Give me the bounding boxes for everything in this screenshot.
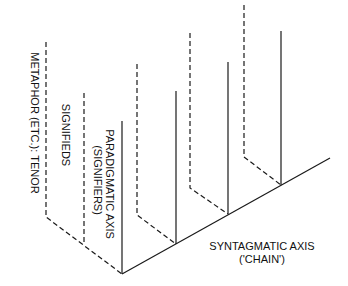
dashed-plane-2 <box>137 64 176 244</box>
metaphor-tenor-label: METAPHOR (ETC.): TENOR <box>29 52 41 193</box>
syntagmatic-sub-label: ('CHAIN') <box>239 253 285 265</box>
dashed-plane-3 <box>190 33 228 214</box>
paradigmatic-sub-label: (SIGNIFIERS) <box>92 145 104 215</box>
paradigmatic-axis-label: PARADIGMATIC AXIS <box>104 129 116 239</box>
dashed-plane-4 <box>244 5 281 185</box>
syntagmatic-axis-line <box>122 158 330 274</box>
semiotic-axes-diagram: METAPHOR (ETC.): TENOR SIGNIFIEDS PARADI… <box>0 0 348 286</box>
syntagmatic-axis-label: SYNTAGMATIC AXIS <box>209 240 314 252</box>
signifieds-label: SIGNIFIEDS <box>60 104 72 166</box>
